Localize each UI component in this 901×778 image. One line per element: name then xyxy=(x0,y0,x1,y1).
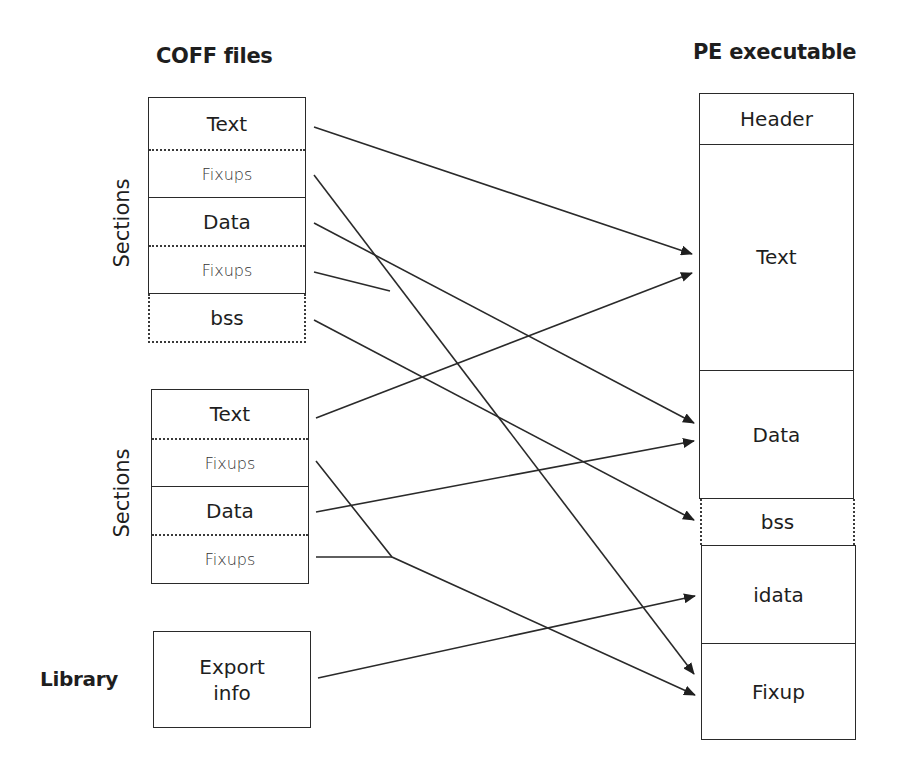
coff1-data-section: Data xyxy=(149,197,305,245)
coff2-text-label: Text xyxy=(210,402,250,426)
library-export-info-box: Export info xyxy=(153,631,311,728)
library-label: Library xyxy=(40,667,118,691)
line-coff1-data-fixups-merge xyxy=(314,272,390,291)
coff2-text-fixups-label: Fixups xyxy=(205,454,256,473)
arrow-coff1-fixups-to-pe-fixup xyxy=(314,175,694,674)
coff2-data-fixups-label: Fixups xyxy=(205,550,256,569)
pe-fixup-label: Fixup xyxy=(752,680,805,704)
pe-lower-box: idata Fixup xyxy=(701,545,856,740)
pe-header-section: Header xyxy=(700,94,853,144)
pe-idata-label: idata xyxy=(753,583,804,607)
arrow-coff1-data-to-pe-data xyxy=(314,223,694,423)
arrow-coff2-data-to-pe-data xyxy=(316,441,694,512)
coff2-text-fixups: Fixups xyxy=(152,438,308,486)
pe-fixup-section: Fixup xyxy=(702,643,855,739)
coff1-data-fixups: Fixups xyxy=(149,245,305,293)
coff1-text-section: Text xyxy=(149,98,305,149)
coff2-data-label: Data xyxy=(206,499,254,523)
pe-idata-section: idata xyxy=(702,546,855,643)
sections-label-1: Sections xyxy=(110,178,136,268)
sections-label-2: Sections xyxy=(110,448,136,538)
pe-text-section: Text xyxy=(700,144,853,370)
arrow-coff1-bss-to-pe-bss xyxy=(314,320,694,520)
coff1-text-fixups-label: Fixups xyxy=(202,165,253,184)
coff2-data-section: Data xyxy=(152,486,308,534)
arrow-export-info-to-pe-idata xyxy=(318,596,695,678)
pe-data-label: Data xyxy=(753,423,801,447)
pe-bss-cell: bss xyxy=(702,499,853,545)
coff1-text-label: Text xyxy=(207,112,247,136)
coff-file-1-box: Text Fixups Data Fixups xyxy=(148,97,306,294)
export-info-line1: Export xyxy=(199,654,264,680)
coff2-data-fixups: Fixups xyxy=(152,534,308,582)
coff-files-title: COFF files xyxy=(156,44,273,68)
pe-executable-title: PE executable xyxy=(693,40,856,64)
export-info-line2: info xyxy=(213,680,251,706)
arrow-coff2-text-to-pe-text xyxy=(316,273,692,418)
coff-file-2-box: Text Fixups Data Fixups xyxy=(151,389,309,584)
coff1-bss-section: bss xyxy=(148,294,306,343)
coff1-bss-label: bss xyxy=(210,306,244,330)
pe-upper-box: Header Text Data xyxy=(699,93,854,499)
coff1-data-label: Data xyxy=(203,210,251,234)
pe-bss-label: bss xyxy=(761,510,795,534)
arrow-coff2-fixups-to-pe-fixup xyxy=(316,461,695,695)
arrow-coff1-text-to-pe-text xyxy=(314,127,692,254)
export-info-cell: Export info xyxy=(154,632,310,727)
coff1-text-fixups: Fixups xyxy=(149,149,305,197)
coff1-bss-cell: bss xyxy=(150,294,304,341)
coff1-data-fixups-label: Fixups xyxy=(202,261,253,280)
pe-text-label: Text xyxy=(756,245,796,269)
coff2-text-section: Text xyxy=(152,390,308,438)
pe-bss-section: bss xyxy=(700,499,855,545)
pe-header-label: Header xyxy=(740,107,813,131)
pe-data-section: Data xyxy=(700,370,853,498)
